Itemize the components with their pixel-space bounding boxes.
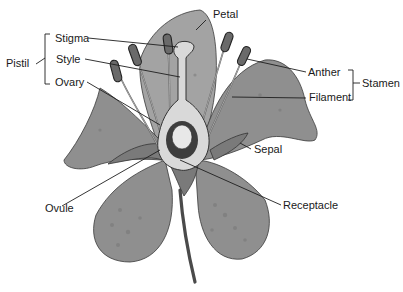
ovule bbox=[172, 125, 192, 149]
label-ovary: Ovary bbox=[55, 76, 85, 88]
label-sepal: Sepal bbox=[254, 143, 282, 155]
label-anther: Anther bbox=[308, 66, 341, 78]
label-filament: Filament bbox=[309, 91, 351, 103]
anther bbox=[220, 31, 234, 53]
petal-lower-left bbox=[94, 160, 173, 262]
flower-diagram: Petal Stigma Style Ovary Pistil Anther F… bbox=[0, 0, 403, 292]
label-petal: Petal bbox=[213, 8, 238, 20]
label-stigma: Stigma bbox=[55, 32, 90, 44]
stem bbox=[180, 190, 195, 282]
anther bbox=[236, 45, 252, 67]
anther bbox=[109, 59, 122, 82]
label-style: Style bbox=[56, 53, 80, 65]
label-ovule: Ovule bbox=[45, 202, 74, 214]
label-stamen: Stamen bbox=[362, 77, 400, 89]
anther bbox=[127, 43, 142, 66]
label-receptacle: Receptacle bbox=[283, 199, 338, 211]
label-pistil: Pistil bbox=[6, 57, 29, 69]
petal-lower-right bbox=[195, 160, 269, 259]
